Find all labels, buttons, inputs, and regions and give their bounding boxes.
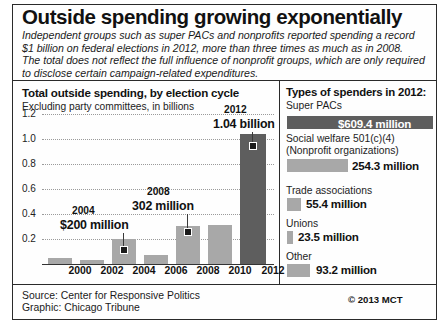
deck-line-2: $1 billion on federal elections in 2012,… xyxy=(22,42,430,55)
y-tick-label-0_6: 0.6 xyxy=(22,184,41,194)
header-divider xyxy=(13,80,436,81)
chart-title: Total outside spending, by election cycl… xyxy=(22,86,239,99)
callout-year-2008: 2008 xyxy=(147,186,170,197)
spender-value-unions: 23.5 million xyxy=(298,230,359,243)
spender-label-other: Other xyxy=(286,251,312,263)
callout-dot-2012 xyxy=(249,142,257,150)
page-title: Outside spending growing exponentially xyxy=(22,6,432,28)
deck-line-4: to disclose certain campaign-related exp… xyxy=(22,67,430,80)
bar-2012 xyxy=(240,134,266,264)
spender-label-trade-associations: Trade associations xyxy=(286,185,372,197)
spender-label-social-welfare-2: (Nonprofit organizations) xyxy=(286,145,399,157)
bar-2000 xyxy=(48,258,72,265)
panel-divider xyxy=(279,80,280,284)
spender-value-other: 93.2 million xyxy=(316,263,377,276)
infographic-root: Outside spending growing exponentially I… xyxy=(0,0,447,331)
y-tick-label-1_0: 1.0 xyxy=(22,134,41,144)
footer-divider xyxy=(13,284,436,285)
y-tick-label-0_2: 0.2 xyxy=(22,234,41,244)
y-tick-label-0_4: 0.4 xyxy=(22,209,41,219)
spender-value-super-pacs: $609.4 million xyxy=(338,117,411,130)
deck-text: Independent groups such as super PACs an… xyxy=(22,29,430,79)
spender-bar-social-welfare xyxy=(287,159,348,172)
callout-year-2004: 2004 xyxy=(72,205,95,216)
deck-line-1: Independent groups such as super PACs an… xyxy=(22,29,430,42)
spender-bar-trade-associations xyxy=(287,198,301,211)
callout-value-2012: 1.04 billion xyxy=(213,117,275,131)
spender-label-unions: Unions xyxy=(286,218,318,230)
spender-bar-unions xyxy=(287,231,293,244)
bar-2006 xyxy=(144,255,168,264)
callout-dot-2004 xyxy=(120,246,128,254)
spenders-title: Types of spenders in 2012: xyxy=(286,86,426,98)
graphic-credit-line: Graphic: Chicago Tribune xyxy=(22,302,140,315)
bar-2002 xyxy=(80,260,104,264)
spender-label-super-pacs: Super PACs xyxy=(286,100,342,112)
deck-line-3: The total does not reflect the full infl… xyxy=(22,54,430,67)
bar-chart-plot: 1.2 1.0 0.8 0.6 0.4 0.2 2000 2002 2004 2… xyxy=(22,108,274,268)
copyright-notice: © 2013 MCT xyxy=(348,294,403,305)
spender-label-social-welfare: Social welfare 501(c)(4) xyxy=(286,133,395,145)
callout-value-2008: 302 million xyxy=(132,199,194,213)
spender-value-trade-associations: 55.4 million xyxy=(306,197,367,210)
y-tick-label-1_2: 1.2 xyxy=(22,109,41,119)
source-line: Source: Center for Responsive Politics xyxy=(22,290,200,303)
spender-bar-other xyxy=(287,264,310,277)
callout-year-2012: 2012 xyxy=(224,104,247,115)
callout-value-2004: $200 million xyxy=(60,218,129,232)
spender-value-social-welfare: 254.3 million xyxy=(352,159,419,172)
callout-dot-2008 xyxy=(184,228,192,236)
bar-2010 xyxy=(208,225,232,264)
x-axis-labels: 2000 2002 2004 2006 2008 2010 2012 xyxy=(42,265,274,279)
y-tick-label-0_8: 0.8 xyxy=(22,159,41,169)
